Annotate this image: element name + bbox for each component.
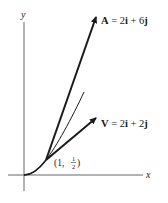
x-axis-label: x (145, 169, 151, 180)
svg-text:(1,: (1, (54, 158, 64, 169)
svg-text:1: 1 (72, 155, 75, 162)
y-axis-label: y (20, 9, 26, 20)
svg-text:2: 2 (72, 163, 75, 170)
trajectory-curve-thick (24, 160, 46, 175)
vector-a-label: A = 2i + 6j (101, 15, 148, 26)
vector-v-label: V = 2i + 2j (101, 118, 148, 129)
point-label: (1, 1 2 ) (54, 155, 80, 170)
vector-diagram: x y A = 2i + 6j V = 2i + 2j (1, 1 2 ) (0, 0, 168, 203)
svg-text:): ) (77, 158, 80, 169)
